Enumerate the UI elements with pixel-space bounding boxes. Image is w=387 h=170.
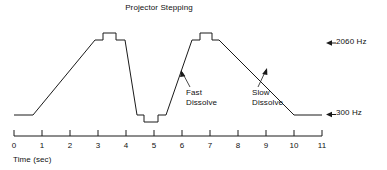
projector-stepping-title: Projector Stepping [113, 3, 205, 13]
plot-area [0, 0, 387, 170]
x-tick-label: 5 [152, 141, 156, 150]
x-tick-label: 4 [124, 141, 128, 150]
frequency-vs-time-figure: Projector Stepping Fast Dissolve Slow Di… [0, 0, 387, 170]
x-tick-label: 2 [68, 141, 72, 150]
waveform-trace [14, 33, 322, 122]
x-tick-label: 10 [290, 141, 299, 150]
low-frequency-level-label: 300 Hz [336, 108, 362, 118]
x-tick-label: 9 [264, 141, 268, 150]
x-tick-label: 0 [12, 141, 16, 150]
x-tick-label: 8 [236, 141, 240, 150]
slow-dissolve-annotation: Slow Dissolve [252, 88, 283, 108]
x-tick-label: 3 [96, 141, 100, 150]
x-axis-ticks [14, 130, 322, 136]
x-tick-label: 11 [318, 141, 326, 150]
fast-dissolve-arrowhead [180, 70, 185, 77]
slow-dissolve-arrowhead [262, 68, 267, 75]
x-axis-title: Time (sec) [13, 155, 51, 165]
x-tick-label: 7 [208, 141, 212, 150]
x-tick-label: 6 [180, 141, 184, 150]
x-tick-label: 1 [40, 141, 44, 150]
fast-dissolve-annotation: Fast Dissolve [186, 88, 217, 108]
high-level-arrowhead [326, 40, 332, 46]
low-level-arrowhead [326, 112, 332, 118]
high-frequency-level-label: 2060 Hz [336, 37, 367, 47]
